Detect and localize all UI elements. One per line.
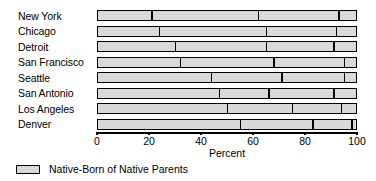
category-label-seattle: Seattle (0, 70, 92, 86)
bar-row (97, 10, 357, 21)
category-label-los-angeles: Los Angeles (0, 101, 92, 117)
bar-segment-divider (351, 120, 353, 129)
bar-row (97, 72, 357, 83)
bar-segment-divider (159, 27, 161, 36)
x-tick-label: 100 (348, 136, 366, 147)
plot-area (97, 8, 357, 132)
category-label-san-antonio: San Antonio (0, 86, 92, 102)
bar-segment-divider (333, 89, 335, 98)
bar-segment-divider (344, 73, 346, 82)
chart-legend: Native-Born of Native Parents (16, 164, 188, 175)
bar-segment-divider (268, 89, 270, 98)
category-label-new-york: New York (0, 8, 92, 24)
legend-swatch-native-born (16, 165, 40, 174)
bar-row (97, 26, 357, 37)
bar-segment-divider (292, 104, 294, 113)
bar-segment-divider (341, 104, 343, 113)
bar-segment-divider (227, 104, 229, 113)
x-axis-line (97, 132, 358, 134)
x-tick-label: 20 (143, 136, 155, 147)
legend-label-native-born: Native-Born of Native Parents (49, 164, 188, 175)
bar-segment-divider (151, 11, 153, 20)
bar-row (97, 88, 357, 99)
x-tick-label: 60 (247, 136, 259, 147)
bar-segment-divider (336, 27, 338, 36)
bar-segment-divider (266, 42, 268, 51)
bar-segment-divider (240, 120, 242, 129)
bar-segment-divider (338, 11, 340, 20)
bar-row (97, 119, 357, 130)
bar-segment-divider (312, 120, 314, 129)
bar-row (97, 41, 357, 52)
bar-segment-divider (344, 58, 346, 67)
bar-segment-divider (258, 11, 260, 20)
bar-segment-divider (175, 42, 177, 51)
x-tick-label: 40 (195, 136, 207, 147)
bar-segment-divider (211, 73, 213, 82)
bar-segment-divider (266, 27, 268, 36)
bar-row (97, 57, 357, 68)
category-label-san-francisco: San Francisco (0, 55, 92, 71)
x-tick-label: 0 (94, 136, 100, 147)
category-label-detroit: Detroit (0, 39, 92, 55)
bar-segment-divider (281, 73, 283, 82)
bar-row (97, 103, 357, 114)
bar-segment-divider (180, 58, 182, 67)
bar-segment-divider (333, 42, 335, 51)
x-tick-label: 80 (299, 136, 311, 147)
category-label-chicago: Chicago (0, 24, 92, 40)
stacked-bar-chart: New York Chicago Detroit San Francisco S… (0, 0, 376, 181)
bar-segment-divider (273, 58, 275, 67)
x-axis-title: Percent (97, 148, 357, 159)
category-axis-labels: New York Chicago Detroit San Francisco S… (0, 8, 92, 132)
category-label-denver: Denver (0, 117, 92, 133)
bar-segment-divider (219, 89, 221, 98)
